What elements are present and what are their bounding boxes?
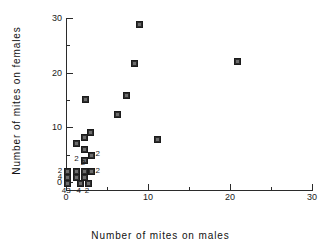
y-tick [67, 18, 73, 19]
y-tick-minor [67, 100, 70, 101]
point-count-label: 2 [96, 150, 100, 158]
data-point [131, 60, 138, 67]
y-tick-minor [67, 45, 70, 46]
point-count-label: 2 [81, 159, 85, 167]
point-count-label: 4 [77, 187, 81, 195]
data-point [88, 152, 95, 159]
data-point [154, 136, 161, 143]
data-point [88, 168, 95, 175]
data-point [87, 129, 94, 136]
y-tick [67, 73, 73, 74]
point-count-label: 2 [85, 187, 89, 195]
data-point [73, 140, 80, 147]
data-point [81, 146, 88, 153]
x-tick [230, 184, 231, 190]
y-tick [67, 127, 73, 128]
point-count-label: 2 [74, 155, 78, 163]
x-tick-label: 30 [300, 192, 321, 202]
data-point [82, 96, 89, 103]
y-tick-label: 20 [40, 68, 62, 78]
point-count-label: 43 [62, 187, 71, 195]
x-axis-line [66, 190, 313, 191]
data-point [81, 134, 88, 141]
data-point [123, 92, 130, 99]
x-tick-minor [107, 187, 108, 190]
y-tick-label: 10 [40, 122, 62, 132]
x-tick-label: 10 [136, 192, 160, 202]
y-axis-title: Number of mites on females [11, 6, 22, 196]
x-tick [148, 184, 149, 190]
data-point [136, 21, 143, 28]
point-count-label: 2 [96, 167, 100, 175]
x-tick [312, 184, 313, 190]
y-axis-line [66, 18, 67, 191]
scatter-plot-figure: 0102030 0102030 2222244342 Number of mit… [0, 0, 321, 250]
data-point [114, 111, 121, 118]
x-axis-title: Number of mites on males [0, 230, 321, 241]
plot-area: 0102030 0102030 2222244342 [0, 0, 321, 250]
x-tick-label: 20 [218, 192, 242, 202]
x-tick-minor [189, 187, 190, 190]
y-tick-minor [67, 155, 70, 156]
y-tick-label: 30 [40, 13, 62, 23]
x-tick-minor [271, 187, 272, 190]
point-count-label: 4 [58, 173, 62, 181]
data-point [234, 58, 241, 65]
